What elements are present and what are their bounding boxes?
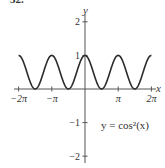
y-tick-label: −1 <box>69 117 80 128</box>
y-tick-label: −2 <box>69 151 80 162</box>
problem-number: 32. <box>10 0 24 5</box>
y-tick-label: 1 <box>75 50 80 61</box>
x-tick-label: π <box>116 93 122 104</box>
y-tick-label: 2 <box>75 16 80 27</box>
chart: 32. y x 21−1−2 −2π−ππ2π y = cos²(x) <box>0 0 165 168</box>
x-tick-label: −π <box>46 93 59 104</box>
x-tick-label: 2π <box>146 93 157 104</box>
x-tick-label: −2π <box>10 93 28 104</box>
equation-label: y = cos²(x) <box>101 119 149 132</box>
y-axis-label: y <box>82 4 88 16</box>
